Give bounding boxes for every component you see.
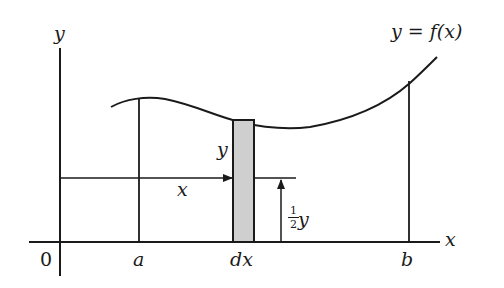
strip-dx <box>233 120 254 242</box>
dx-label: dx <box>230 250 253 269</box>
b-label: b <box>401 250 413 269</box>
function-curve <box>111 57 437 128</box>
diagram-graphics <box>0 0 504 288</box>
curve-label: y = f(x) <box>391 22 462 41</box>
a-label: a <box>133 250 144 269</box>
distance-label: x <box>177 180 188 199</box>
x-axis-label: x <box>445 230 456 249</box>
origin-label: 0 <box>40 250 52 269</box>
half-y-variable: y <box>298 210 309 229</box>
strip-height-label: y <box>217 140 228 159</box>
diagram: y = f(x) y x 0 a b dx y x 1 2 y <box>0 0 504 288</box>
y-axis-label: y <box>54 24 65 43</box>
